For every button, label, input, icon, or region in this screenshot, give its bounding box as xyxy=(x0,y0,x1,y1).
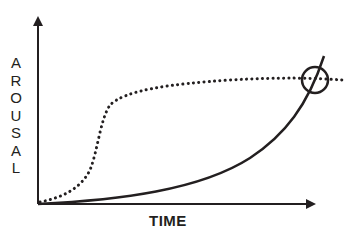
x-axis-arrow-icon xyxy=(306,199,316,209)
x-axis-label: TIME xyxy=(149,212,187,229)
y-label-letter: R xyxy=(8,72,24,90)
y-axis-label: A R O U S A L xyxy=(8,54,24,177)
y-label-letter: A xyxy=(8,54,24,72)
arousal-time-diagram xyxy=(0,0,355,241)
y-label-letter: L xyxy=(8,159,24,177)
y-label-letter: O xyxy=(8,89,24,107)
y-axis-arrow-icon xyxy=(33,16,43,26)
y-label-letter: A xyxy=(8,142,24,160)
y-label-letter: U xyxy=(8,107,24,125)
y-label-letter: S xyxy=(8,124,24,142)
